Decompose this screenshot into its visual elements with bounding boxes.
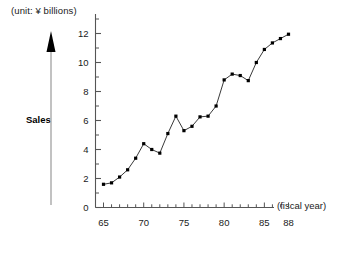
svg-text:4: 4 bbox=[83, 144, 88, 155]
data-line bbox=[104, 34, 289, 184]
data-point bbox=[287, 33, 290, 36]
svg-text:8: 8 bbox=[83, 86, 88, 97]
svg-text:88: 88 bbox=[283, 217, 294, 228]
svg-text:70: 70 bbox=[138, 217, 149, 228]
chart-canvas: 121086420 657075808588 bbox=[0, 0, 349, 258]
data-point bbox=[223, 78, 226, 81]
data-point bbox=[247, 79, 250, 82]
x-axis-tick-labels: 657075808588 bbox=[98, 217, 294, 228]
y-axis-ticks bbox=[96, 19, 102, 208]
data-point bbox=[231, 73, 234, 76]
data-points bbox=[102, 33, 290, 186]
svg-text:2: 2 bbox=[83, 173, 88, 184]
data-point bbox=[263, 48, 266, 51]
data-point bbox=[142, 142, 145, 145]
chart-axes bbox=[96, 14, 275, 208]
data-point bbox=[166, 132, 169, 135]
data-point bbox=[279, 37, 282, 40]
svg-text:80: 80 bbox=[219, 217, 230, 228]
data-point bbox=[110, 181, 113, 184]
x-axis-ticks bbox=[104, 203, 289, 208]
data-point bbox=[182, 129, 185, 132]
data-point bbox=[239, 74, 242, 77]
data-point bbox=[215, 104, 218, 107]
data-point bbox=[198, 115, 201, 118]
data-point bbox=[118, 175, 121, 178]
y-axis-tick-labels: 121086420 bbox=[78, 28, 89, 213]
svg-text:0: 0 bbox=[83, 202, 88, 213]
sales-direction-arrow bbox=[47, 31, 56, 205]
svg-text:12: 12 bbox=[78, 28, 89, 39]
data-point bbox=[271, 41, 274, 44]
data-point bbox=[158, 152, 161, 155]
data-point bbox=[206, 115, 209, 118]
svg-text:6: 6 bbox=[83, 115, 88, 126]
data-point bbox=[150, 148, 153, 151]
data-point bbox=[134, 157, 137, 160]
data-point bbox=[102, 183, 105, 186]
data-point bbox=[126, 168, 129, 171]
svg-text:75: 75 bbox=[179, 217, 190, 228]
svg-text:65: 65 bbox=[98, 217, 109, 228]
data-point bbox=[190, 125, 193, 128]
svg-text:85: 85 bbox=[259, 217, 270, 228]
svg-text:10: 10 bbox=[78, 57, 89, 68]
data-point bbox=[174, 115, 177, 118]
sales-line-chart: (unit: ¥ billions) Sales (fiscal year) 1… bbox=[0, 0, 349, 258]
data-point bbox=[255, 61, 258, 64]
